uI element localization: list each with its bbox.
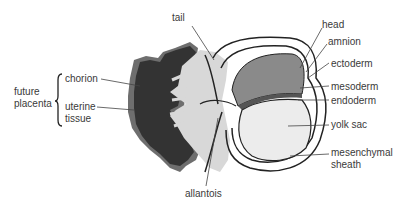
label-amnion: amnion	[328, 36, 361, 47]
future-placenta-brace	[55, 74, 62, 126]
label-yolk-sac: yolk sac	[331, 119, 367, 130]
label-uterine: uterine	[65, 101, 96, 112]
label-mesoderm: mesoderm	[331, 81, 378, 92]
uterine-tissue-shape	[128, 42, 230, 172]
yolk-sac	[239, 99, 311, 160]
label-head: head	[322, 19, 344, 30]
label-chorion: chorion	[65, 73, 98, 84]
label-future: future	[14, 86, 40, 97]
label-ectoderm: ectoderm	[331, 58, 373, 69]
label-allantois: allantois	[185, 188, 222, 199]
embryo-diagram: tail head amnion ectoderm mesoderm endod…	[0, 0, 406, 212]
label-sheath: sheath	[331, 159, 361, 170]
label-tail: tail	[172, 12, 185, 23]
label-endoderm: endoderm	[331, 95, 376, 106]
label-tissue: tissue	[65, 113, 91, 124]
label-mesenchymal: mesenchymal	[331, 147, 393, 158]
label-placenta: placenta	[14, 98, 52, 109]
